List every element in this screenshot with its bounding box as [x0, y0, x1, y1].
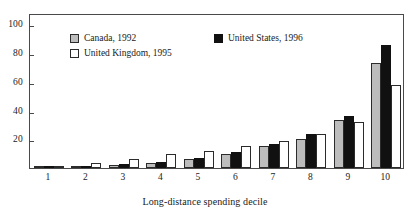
legend-swatch-united-kingdom-icon	[70, 49, 79, 58]
bar	[119, 164, 129, 168]
bar	[109, 165, 119, 168]
legend-label-canada: Canada, 1992	[84, 33, 136, 43]
bar	[81, 166, 91, 168]
bar	[391, 85, 401, 168]
x-axis-tick-label: 5	[181, 172, 215, 183]
y-axis-tick-label: 100	[0, 20, 23, 30]
bar	[296, 139, 306, 168]
x-axis-tick-label: 2	[68, 172, 102, 183]
y-axis-tick-label: 40	[0, 107, 23, 117]
bar	[194, 158, 204, 168]
bar	[184, 159, 194, 168]
bar	[221, 154, 231, 168]
x-axis-tick-label: 4	[143, 172, 177, 183]
bar	[44, 166, 54, 168]
y-axis-tick-label: 20	[0, 135, 23, 145]
bar	[129, 159, 139, 168]
legend-item-united-kingdom: United Kingdom, 1995	[70, 48, 172, 58]
bar-group	[184, 15, 214, 168]
bar	[166, 154, 176, 168]
x-axis-title: Long-distance spending decile	[0, 196, 410, 208]
bar	[241, 146, 251, 168]
bar	[334, 120, 344, 168]
x-axis-tick-label: 9	[331, 172, 365, 183]
y-axis-tick-label: 80	[0, 49, 23, 59]
bar	[381, 45, 391, 168]
bar	[91, 163, 101, 168]
bar	[156, 162, 166, 168]
bar	[354, 122, 364, 168]
legend-label-united-kingdom: United Kingdom, 1995	[84, 48, 172, 58]
plot-area: Canada, 1992 United Kingdom, 1995 United…	[29, 14, 404, 169]
x-axis-tick-label: 3	[106, 172, 140, 183]
bar-group	[371, 15, 401, 168]
x-axis-tick-label: 7	[256, 172, 290, 183]
x-axis-tick-label: 6	[218, 172, 252, 183]
bar	[306, 134, 316, 168]
bar	[279, 141, 289, 168]
x-axis-tick-label: 10	[368, 172, 402, 183]
legend-label-united-states: United States, 1996	[228, 33, 303, 43]
bar	[71, 166, 81, 168]
x-axis-tick-label: 1	[31, 172, 65, 183]
bar-group	[34, 15, 64, 168]
bar-chart-figure: 20406080100 Canada, 1992 United Kingdom,…	[0, 0, 410, 220]
legend-swatch-canada-icon	[70, 34, 79, 43]
bar	[316, 134, 326, 168]
bar	[259, 146, 269, 168]
legend-swatch-united-states-icon	[214, 34, 223, 43]
y-axis-tick-label: 60	[0, 78, 23, 88]
legend-item-canada: Canada, 1992	[70, 33, 136, 43]
bar-group	[146, 15, 176, 168]
bar	[231, 152, 241, 168]
bar	[34, 166, 44, 168]
bar	[371, 63, 381, 168]
legend-item-united-states: United States, 1996	[214, 33, 303, 43]
x-axis-tick-label: 8	[293, 172, 327, 183]
bar-group	[334, 15, 364, 168]
bar	[146, 163, 156, 168]
bar	[344, 116, 354, 168]
bar	[269, 144, 279, 168]
bar	[204, 151, 214, 168]
bar	[54, 166, 64, 168]
